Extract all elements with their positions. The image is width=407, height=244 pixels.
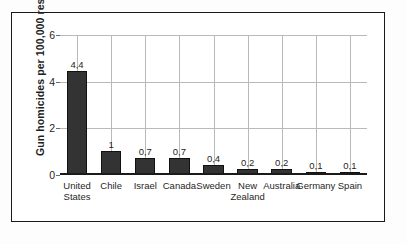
x-label-australia: Australia [263, 180, 300, 191]
bar-united-states [67, 71, 87, 174]
x-label-spain: Spain [338, 180, 362, 191]
bar-canada [169, 158, 189, 174]
x-label-line: Sweden [196, 180, 230, 191]
bar-value-australia: 0,2 [275, 157, 288, 168]
gridline-x-7 [316, 35, 317, 175]
x-label-israel: Israel [134, 180, 157, 191]
x-label-line: States [63, 191, 90, 202]
x-axis-line [60, 173, 367, 175]
y-axis-title: Gun homicides per 100,000 residents [34, 6, 46, 156]
x-label-line: Germany [296, 180, 335, 191]
bar-value-germany: 0,1 [309, 160, 322, 171]
bar-value-spain: 0,1 [343, 160, 356, 171]
y-tick-mark-2 [56, 128, 60, 129]
x-label-sweden: Sweden [196, 180, 230, 191]
x-label-line: Australia [263, 180, 300, 191]
x-label-line: Zealand [230, 191, 264, 202]
chart-page: Gun homicides per 100,000 residents 0246… [0, 0, 407, 244]
y-tick-label-2: 2 [49, 122, 55, 134]
bar-value-new-zealand: 0,2 [241, 157, 254, 168]
y-tick-label-6: 6 [49, 29, 55, 41]
x-label-line: Chile [100, 180, 122, 191]
x-label-germany: Germany [296, 180, 335, 191]
bar-chile [101, 151, 121, 174]
gridline-x-6 [282, 35, 283, 175]
y-tick-mark-4 [56, 82, 60, 83]
bar-israel [135, 158, 155, 174]
bar-value-sweden: 0,4 [207, 153, 220, 164]
x-label-line: Canada [163, 180, 196, 191]
x-label-canada: Canada [163, 180, 196, 191]
x-label-new-zealand: NewZealand [230, 180, 264, 202]
x-label-united-states: UnitedStates [63, 180, 90, 202]
y-tick-label-4: 4 [49, 76, 55, 88]
gridline-x-5 [248, 35, 249, 175]
gridline-x-8 [350, 35, 351, 175]
x-label-line: New [230, 180, 264, 191]
bar-value-israel: 0,7 [139, 146, 152, 157]
y-tick-mark-6 [56, 35, 60, 36]
x-label-chile: Chile [100, 180, 122, 191]
y-tick-label-0: 0 [49, 169, 55, 181]
x-label-line: United [63, 180, 90, 191]
x-label-line: Spain [338, 180, 362, 191]
bar-value-canada: 0,7 [173, 146, 186, 157]
chart-frame: Gun homicides per 100,000 residents 0246… [11, 12, 385, 222]
plot-area: 0246 4,410,70,70,40,20,20,10,1 [60, 35, 367, 175]
x-label-line: Israel [134, 180, 157, 191]
bar-value-united-states: 4,4 [70, 59, 83, 70]
bar-value-chile: 1 [109, 139, 114, 150]
y-tick-mark-0 [56, 175, 60, 176]
